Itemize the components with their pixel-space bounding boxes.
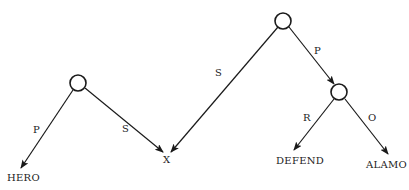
edge-label: P bbox=[314, 45, 321, 56]
arrow-line bbox=[294, 99, 334, 150]
arrow-line bbox=[85, 88, 163, 152]
edge-label: P bbox=[33, 124, 40, 135]
edge-n1-to-hero: P bbox=[21, 90, 73, 168]
nodes-group bbox=[70, 13, 347, 100]
node-circle-n1 bbox=[70, 75, 86, 91]
edge-label: S bbox=[215, 67, 222, 78]
node-circle-n3 bbox=[331, 84, 347, 100]
arrow-line bbox=[21, 90, 73, 168]
node-circle-n2 bbox=[275, 13, 291, 29]
arrow-line bbox=[171, 27, 278, 152]
arrow-line bbox=[289, 27, 334, 84]
edge-n3-to-defend: R bbox=[294, 99, 334, 150]
edge-label: S bbox=[122, 123, 129, 134]
leaf-label-alamo: ALAMO bbox=[365, 159, 407, 170]
leaf-label-defend: DEFEND bbox=[276, 155, 324, 166]
edge-n2-to-x: S bbox=[171, 27, 278, 152]
edge-n1-to-x: S bbox=[85, 88, 163, 152]
arrow-line bbox=[345, 99, 388, 154]
edge-label: O bbox=[368, 112, 376, 123]
leaf-label-hero: HERO bbox=[7, 172, 40, 183]
edge-n2-to-n3: P bbox=[289, 27, 334, 84]
edge-label: R bbox=[303, 112, 311, 123]
leaves-group: HEROXDEFENDALAMO bbox=[7, 154, 407, 183]
edge-n3-to-alamo: O bbox=[345, 99, 388, 154]
leaf-label-x: X bbox=[163, 154, 171, 165]
semantic-network-diagram: PSSPRO HEROXDEFENDALAMO bbox=[0, 0, 409, 190]
